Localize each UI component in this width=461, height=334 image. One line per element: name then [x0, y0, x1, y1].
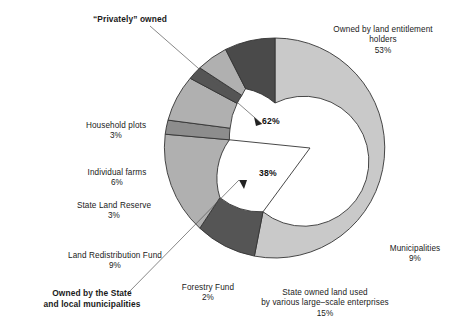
label-household-plots-pct: 3%: [58, 131, 174, 142]
label-entitlement-holders-text: Owned by land entitlement holders: [333, 25, 432, 45]
label-entitlement-holders-pct: 53%: [320, 46, 446, 57]
label-large-scale-enterprises-text: State owned land used by various large–s…: [261, 288, 389, 308]
label-household-plots-text: Household plots: [86, 121, 146, 130]
label-forestry-fund-pct: 2%: [168, 293, 248, 304]
label-individual-farms-pct: 6%: [60, 178, 174, 189]
label-large-scale-enterprises: State owned land used by various large–s…: [240, 277, 410, 330]
label-state-land-reserve-pct: 3%: [54, 211, 174, 222]
label-municipalities: Municipalities 9%: [375, 233, 455, 275]
leader-arrowheads: [239, 117, 262, 189]
callout-privately-owned: “Privately” owned: [60, 14, 200, 25]
chart-page: “Privately” owned Owned by the State and…: [0, 0, 461, 334]
callout-state-owned: Owned by the State and local municipalit…: [16, 288, 168, 309]
label-large-scale-enterprises-pct: 15%: [240, 309, 410, 320]
label-entitlement-holders: Owned by land entitlement holders 53%: [320, 14, 446, 67]
label-individual-farms: Individual farms 6%: [60, 157, 174, 199]
donut-slices: [164, 38, 384, 258]
label-household-plots: Household plots 3%: [58, 110, 174, 152]
label-land-redistribution-fund-pct: 9%: [46, 261, 184, 272]
arrowhead-privately-owned: [254, 117, 262, 126]
inner-label-private-pct: 62%: [262, 116, 280, 126]
label-state-land-reserve-text: State Land Reserve: [77, 201, 151, 210]
label-land-redistribution-fund: Land Redistribution Fund 9%: [46, 240, 184, 282]
label-municipalities-text: Municipalities: [390, 244, 441, 253]
label-forestry-fund-text: Forestry Fund: [182, 283, 234, 292]
label-individual-farms-text: Individual farms: [88, 168, 147, 177]
inner-label-state-pct: 38%: [259, 168, 277, 178]
label-municipalities-pct: 9%: [375, 254, 455, 265]
label-land-redistribution-fund-text: Land Redistribution Fund: [68, 251, 162, 260]
arrowhead-state-owned: [239, 180, 247, 189]
